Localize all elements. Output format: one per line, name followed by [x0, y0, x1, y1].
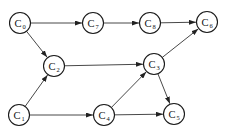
node-subscript: 1 — [22, 115, 25, 122]
node-subscript: 3 — [157, 64, 160, 71]
edge-c3-to-c6 — [162, 29, 198, 58]
edge-c4-to-c5 — [115, 114, 164, 115]
edge-c2-to-c3 — [65, 64, 144, 66]
node-c4: C4 — [94, 105, 115, 126]
node-c0: C0 — [10, 13, 31, 34]
edge-c1-to-c2 — [25, 75, 48, 107]
nodes-layer: C0C7C8C6C2C3C1C4C5 — [9, 12, 218, 126]
node-c1: C1 — [9, 105, 30, 126]
node-label: C — [144, 18, 151, 29]
node-label: C — [14, 18, 21, 29]
node-label: C — [98, 110, 105, 121]
node-c6: C6 — [197, 12, 218, 33]
node-subscript: 2 — [57, 66, 60, 73]
node-label: C — [148, 59, 155, 70]
node-label: C — [13, 110, 20, 121]
edge-c8-to-c6 — [161, 22, 197, 23]
node-c8: C8 — [140, 13, 161, 34]
edge-c0-to-c2 — [27, 31, 48, 57]
node-c5: C5 — [164, 104, 185, 125]
node-c3: C3 — [144, 54, 165, 75]
edge-c4-to-c3 — [111, 72, 146, 108]
node-label: C — [201, 17, 208, 28]
edge-c3-to-c5 — [158, 74, 170, 104]
node-subscript: 8 — [153, 23, 156, 30]
node-c7: C7 — [83, 13, 104, 34]
node-subscript: 5 — [177, 114, 180, 121]
directed-graph: C0C7C8C6C2C3C1C4C5 — [0, 0, 229, 136]
node-label: C — [48, 61, 55, 72]
node-label: C — [87, 18, 94, 29]
node-label: C — [168, 109, 175, 120]
node-subscript: 0 — [23, 23, 26, 30]
node-c2: C2 — [44, 56, 65, 77]
